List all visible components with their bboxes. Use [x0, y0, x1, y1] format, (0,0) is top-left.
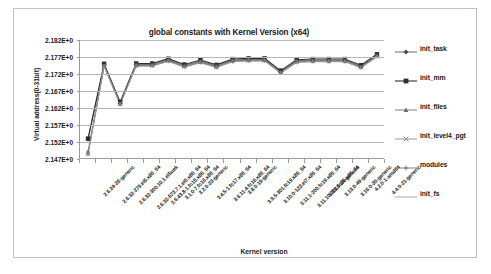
x-tick-mark [320, 159, 321, 163]
gridline [80, 57, 384, 58]
legend-item-modules[interactable]: modules [395, 159, 447, 169]
x-tick-mark [207, 159, 208, 163]
chart-frame: global constants with Kernel Version (x6… [13, 8, 477, 258]
gridline [80, 91, 384, 92]
x-tick-mark [159, 159, 160, 163]
gridline [80, 74, 384, 75]
x-tick-mark [223, 159, 224, 163]
legend-label: init_task [420, 45, 447, 52]
x-tick-mark [352, 159, 353, 163]
legend-label: init_mm [420, 74, 445, 81]
x-tick-mark [111, 159, 112, 163]
series-line-modules [88, 57, 377, 155]
y-tick-label: 2.167E+0 [29, 88, 73, 95]
gridline [80, 125, 384, 126]
x-tick-mark [95, 159, 96, 163]
legend-label: modules [420, 161, 447, 168]
y-tick-mark [77, 125, 80, 126]
legend-key-modules [395, 159, 417, 169]
series-line-init_task [88, 55, 377, 139]
chart-screenshot: global constants with Kernel Version (x6… [0, 0, 491, 274]
y-tick-mark [77, 108, 80, 109]
x-tick-mark [368, 159, 369, 163]
y-tick-mark [77, 57, 80, 58]
x-axis-title: Kernel version [164, 248, 364, 255]
y-tick-label: 2.147E+0 [29, 156, 73, 163]
gridline [80, 142, 384, 143]
x-tick-mark [256, 159, 257, 163]
x-tick-mark [384, 159, 385, 163]
legend-item-init_level4_pgt[interactable]: init_level4_pgt [395, 130, 466, 140]
legend-key-init_mm [395, 72, 417, 82]
x-tick-mark [336, 159, 337, 163]
series-line-init_files [88, 56, 377, 152]
gridline [80, 40, 384, 41]
legend-item-init_files[interactable]: init_files [395, 101, 447, 111]
series-line-init_level4_pgt [88, 56, 377, 153]
y-tick-mark [77, 91, 80, 92]
legend-key-init_task [395, 43, 417, 53]
x-tick-mark [272, 159, 273, 163]
y-tick-label: 2.152E+0 [29, 139, 73, 146]
chart-title: global constants with Kernel Version (x6… [84, 28, 374, 37]
x-tick-mark [79, 159, 80, 163]
y-tick-label: 2.172E+0 [29, 71, 73, 78]
y-tick-label: 2.157E+0 [29, 122, 73, 129]
series-line-init_fs [88, 57, 377, 155]
y-tick-mark [77, 40, 80, 41]
legend-label: init_level4_pgt [420, 132, 466, 139]
gridline [80, 108, 384, 109]
legend-item-init_mm[interactable]: init_mm [395, 72, 445, 82]
y-tick-label: 2.162E+0 [29, 105, 73, 112]
x-tick-mark [175, 159, 176, 163]
y-tick-mark [77, 74, 80, 75]
legend-label: init_files [420, 103, 447, 110]
legend-key-init_level4_pgt [395, 130, 417, 140]
legend-label: init_fs [420, 190, 439, 197]
plot-area [79, 40, 384, 159]
marker-init_mm [86, 136, 90, 140]
x-tick-mark [127, 159, 128, 163]
legend-key-init_fs [395, 188, 417, 198]
x-tick-mark [304, 159, 305, 163]
legend-item-init_fs[interactable]: init_fs [395, 188, 439, 198]
x-tick-mark [240, 159, 241, 163]
y-tick-label: 2.182E+0 [29, 37, 73, 44]
legend-key-init_files [395, 101, 417, 111]
x-tick-mark [143, 159, 144, 163]
x-tick-mark [191, 159, 192, 163]
y-tick-label: 2.177E+0 [29, 54, 73, 61]
legend-item-init_task[interactable]: init_task [395, 43, 447, 53]
x-tick-label: 3.6.11-4.fc16.x86_64 [233, 164, 271, 202]
x-tick-mark [288, 159, 289, 163]
y-tick-mark [77, 142, 80, 143]
